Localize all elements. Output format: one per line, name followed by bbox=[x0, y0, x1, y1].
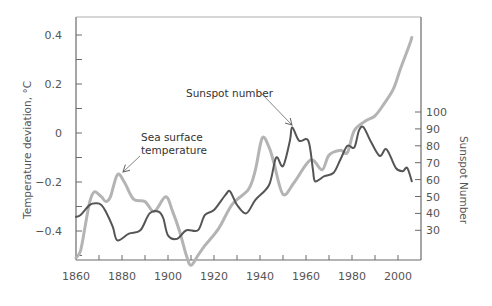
sea-surface-temperature-line bbox=[76, 38, 412, 266]
x-tick-label: 1920 bbox=[200, 270, 228, 283]
annotation-sea-surface-temperature: Sea surface temperature bbox=[123, 131, 207, 172]
annotation-label: Sunspot number bbox=[186, 87, 274, 99]
y2-tick-label: 90 bbox=[426, 123, 440, 136]
x-tick-label: 2000 bbox=[384, 270, 412, 283]
x-tick-label: 1980 bbox=[338, 270, 366, 283]
y2-tick-label: 60 bbox=[426, 174, 440, 187]
y-tick-label: 0.2 bbox=[45, 78, 63, 91]
y2-tick-label: 80 bbox=[426, 140, 440, 153]
y2-tick-label: 30 bbox=[426, 224, 440, 237]
x-tick-label: 1880 bbox=[108, 270, 136, 283]
x-tick-label: 1860 bbox=[62, 270, 90, 283]
x-tick-label: 1900 bbox=[154, 270, 182, 283]
x-tick-label: 1940 bbox=[246, 270, 274, 283]
annotation-label-line2: temperature bbox=[141, 144, 207, 156]
plot-series bbox=[76, 38, 412, 266]
annotation-arrow bbox=[123, 156, 140, 172]
y-tick-label: 0 bbox=[55, 127, 62, 140]
x-axis-ticks: 18601880190019201940196019802000 bbox=[62, 255, 412, 283]
y-tick-label: −0.2 bbox=[35, 176, 62, 189]
y-tick-label: 0.4 bbox=[45, 29, 63, 42]
right-y-axis-ticks: 10090807060504030 bbox=[415, 106, 447, 237]
y-tick-label: −0.4 bbox=[35, 225, 62, 238]
y2-tick-label: 40 bbox=[426, 207, 440, 220]
x-tick-label: 1960 bbox=[292, 270, 320, 283]
annotation-label-line1: Sea surface bbox=[141, 131, 203, 143]
climate-chart: 18601880190019201940196019802000 0.40.20… bbox=[0, 0, 492, 306]
y2-tick-label: 100 bbox=[426, 106, 447, 119]
annotation-sunspot-number: Sunspot number bbox=[186, 87, 292, 125]
y2-tick-label: 50 bbox=[426, 191, 440, 204]
left-y-axis-ticks: 0.40.20−0.2−0.4 bbox=[35, 29, 82, 256]
annotation-arrow bbox=[261, 93, 292, 125]
y2-tick-label: 70 bbox=[426, 157, 440, 170]
left-axis-title: Temperature deviation, °C bbox=[21, 81, 33, 220]
right-axis-title: Sunspot Number bbox=[458, 136, 470, 225]
